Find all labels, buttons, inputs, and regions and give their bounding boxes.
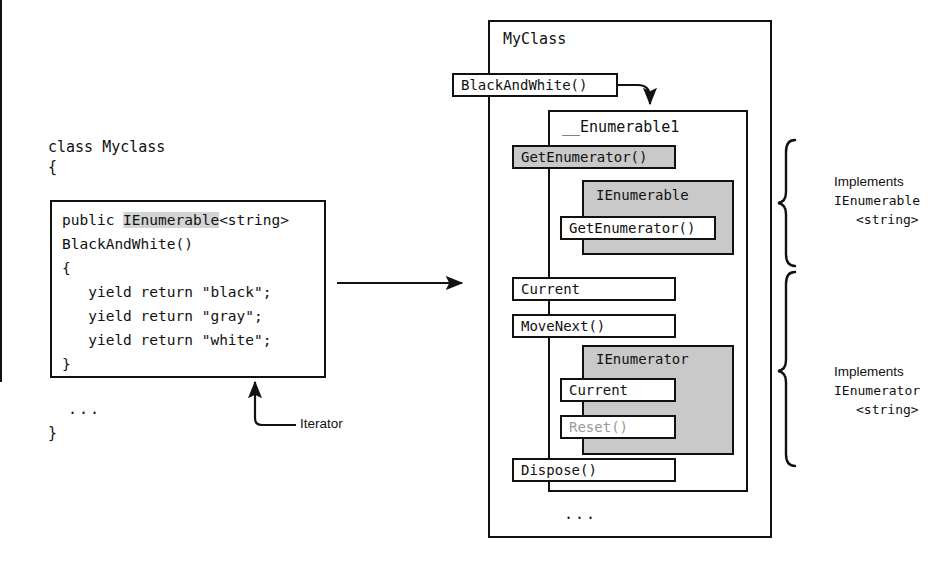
member-movenext-label: MoveNext() — [521, 318, 605, 334]
implements-ienumerable-annotation: Implements IEnumerable <string> — [834, 172, 920, 229]
class-declaration: class Myclass — [48, 136, 165, 158]
ienumerable-member-getenumerator-label: GetEnumerator() — [569, 220, 695, 236]
code-line5: yield return "gray"; — [62, 308, 263, 324]
ienumerable-interface-title: IEnumerable — [596, 187, 689, 203]
iterator-source-code: public IEnumerable<string> BlackAndWhite… — [62, 208, 289, 376]
enumerable1-title: __Enumerable1 — [562, 118, 679, 136]
class-close-brace: } — [48, 424, 57, 442]
code-line1-suffix: <string> — [219, 212, 289, 228]
class-body-ellipsis: ... — [68, 400, 101, 418]
annotation-implements-word-2: Implements — [834, 364, 904, 379]
member-getenumerator-label: GetEnumerator() — [521, 149, 647, 165]
annotation-interface-name-2: IEnumerator — [834, 383, 920, 398]
iterator-callout-arrow — [255, 382, 296, 425]
ienumerator-interface-title: IEnumerator — [596, 351, 689, 367]
member-dispose-label: Dispose() — [521, 462, 597, 478]
blackandwhite-method-label: BlackAndWhite() — [461, 77, 587, 93]
member-current-label: Current — [521, 281, 580, 297]
code-line2: BlackAndWhite() — [62, 236, 193, 252]
code-line4: yield return "black"; — [62, 284, 272, 300]
iterator-callout-label: Iterator — [300, 416, 343, 431]
annotation-interface-name-1: IEnumerable — [834, 193, 920, 208]
code-line7: } — [62, 356, 71, 372]
ienumerator-member-current-label: Current — [569, 382, 628, 398]
class-open-brace: { — [48, 158, 57, 176]
ienumerator-member-reset-label: Reset() — [569, 419, 628, 435]
brace-ienumerator — [778, 272, 795, 466]
code-line6: yield return "white"; — [62, 332, 272, 348]
code-line1-highlight: IEnumerable — [123, 212, 219, 228]
member-connector-spine — [0, 0, 2, 382]
annotation-implements-word-1: Implements — [834, 174, 904, 189]
diagram-canvas: class Myclass { public IEnumerable<strin… — [0, 0, 935, 568]
code-line1-prefix: public — [62, 212, 123, 228]
enumerable1-ellipsis: ... — [564, 505, 597, 523]
code-line3: { — [62, 260, 71, 276]
myclass-title: MyClass — [503, 30, 566, 48]
brace-ienumerable — [778, 140, 795, 266]
implements-ienumerator-annotation: Implements IEnumerator <string> — [834, 362, 920, 419]
annotation-generic-2: <string> — [834, 402, 919, 417]
annotation-generic-1: <string> — [834, 212, 919, 227]
